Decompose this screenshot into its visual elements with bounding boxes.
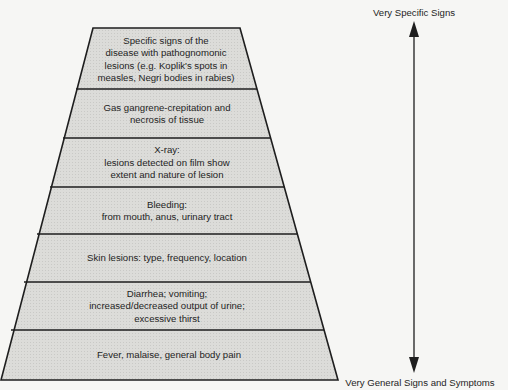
bottom-axis-label: Very General Signs and Symptoms [345, 377, 494, 388]
arrow-up-icon [409, 21, 419, 37]
pyramid-layer-1: Specific signs of the disease with patho… [80, 30, 252, 89]
pyramid-layer-4: Bleeding: from mouth, anus, urinary trac… [43, 188, 291, 234]
pyramid-layer-5: Skin lesions: type, frequency, location [30, 235, 304, 282]
pyramid-layer-7: Fever, malaise, general body pain [6, 331, 332, 380]
pyramid-layer-2: Gas gangrene-crepitation and necrosis of… [70, 90, 264, 138]
arrow-down-icon [409, 357, 419, 373]
specificity-arrow [409, 21, 419, 373]
top-axis-label: Very Specific Signs [373, 7, 455, 18]
pyramid-layer-6: Diarrhea; vomiting; increased/decreased … [17, 283, 317, 330]
pyramid-layer-3: X-ray: lesions detected on film show ext… [56, 139, 278, 187]
